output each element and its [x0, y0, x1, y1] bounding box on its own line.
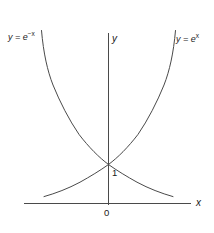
- curve-label-exp-neg-x: y = e−x: [8, 33, 35, 42]
- exponential-functions-figure: y = e−x y = ex y x 1 0: [0, 0, 214, 233]
- y-axis-label: y: [112, 34, 117, 44]
- curve-label-left-text: y = e: [8, 32, 28, 42]
- origin-label: 0: [104, 208, 109, 218]
- curve-label-right-exponent: x: [196, 32, 199, 39]
- curve-label-exp-x: y = ex: [176, 35, 199, 44]
- x-axis-label: x: [196, 198, 201, 208]
- curve-label-left-exponent: −x: [28, 30, 35, 37]
- y-intercept-tick-label: 1: [112, 168, 117, 178]
- curve-label-right-text: y = e: [176, 34, 196, 44]
- curve-exp-x: [44, 31, 176, 197]
- curve-exp-neg-x: [42, 31, 174, 197]
